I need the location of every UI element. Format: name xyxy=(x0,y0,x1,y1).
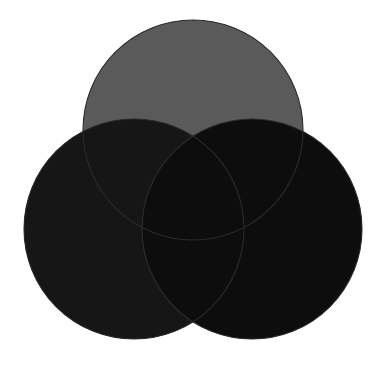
venn-diagram-svg xyxy=(0,0,384,369)
venn-diagram-canvas xyxy=(0,0,384,369)
